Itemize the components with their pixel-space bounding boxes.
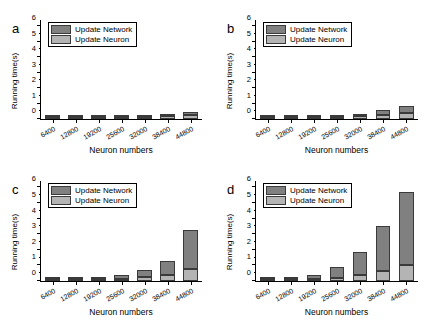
legend-swatch-neuron-icon	[51, 35, 71, 44]
y-tick-label-d-4: 4	[247, 205, 251, 214]
bar-slot: 38400	[156, 181, 179, 281]
bar-segment-update-network[interactable]	[160, 261, 174, 275]
stacked-bar[interactable]	[376, 207, 390, 281]
bar-segment-update-neuron[interactable]	[183, 269, 197, 281]
panel-letter-a: a	[12, 22, 19, 35]
stacked-bar[interactable]	[114, 106, 128, 119]
x-tick-a-6400	[53, 119, 54, 123]
bar-segment-update-network[interactable]	[183, 230, 197, 269]
y-tick-label-b-4: 4	[247, 44, 251, 53]
y-tick-label-a-0: 0	[32, 106, 36, 115]
bar-segment-update-network[interactable]	[330, 267, 344, 278]
x-tick-label-b-6400: 6400	[254, 125, 271, 139]
legend-label-update-neuron: Update Neuron	[75, 197, 129, 205]
stacked-bar[interactable]	[183, 210, 197, 281]
stacked-bar[interactable]	[307, 257, 321, 281]
x-tick-label-a-25600: 25600	[104, 125, 124, 141]
stacked-bar[interactable]	[91, 110, 105, 119]
legend-c: Update NetworkUpdate Neuron	[48, 183, 137, 208]
bar-segment-update-network[interactable]	[399, 106, 413, 113]
legend-label-update-neuron: Update Neuron	[290, 36, 344, 44]
stacked-bar[interactable]	[284, 112, 298, 119]
y-tick-label-a-4: 4	[32, 44, 36, 53]
legend-item-update-network[interactable]: Update Network	[266, 25, 347, 34]
bar-slot: 38400	[372, 20, 395, 119]
legend-item-update-network[interactable]: Update Network	[51, 25, 132, 34]
x-tick-label-d-6400: 6400	[254, 287, 271, 301]
stacked-bar[interactable]	[330, 243, 344, 281]
stacked-bar[interactable]	[160, 97, 174, 119]
bar-segment-update-neuron[interactable]	[376, 271, 390, 281]
stacked-bar[interactable]	[91, 265, 105, 281]
x-tick-label-b-12800: 12800	[274, 125, 294, 141]
bar-segment-update-network[interactable]	[353, 252, 367, 274]
y-tick-label-b-5: 5	[247, 28, 251, 37]
stacked-bar[interactable]	[284, 268, 298, 281]
stacked-bar[interactable]	[330, 103, 344, 119]
x-tick-label-d-32000: 32000	[343, 287, 363, 303]
y-tick-label-c-0: 0	[32, 268, 36, 277]
y-tick-label-a-2: 2	[32, 75, 36, 84]
legend-b: Update NetworkUpdate Neuron	[263, 22, 352, 47]
legend-item-update-neuron[interactable]: Update Neuron	[266, 196, 347, 205]
y-axis-title-b: Running time(s)	[225, 52, 234, 108]
bar-segment-update-network[interactable]	[137, 270, 151, 277]
x-tick-d-44800	[406, 281, 407, 285]
x-tick-d-38400	[383, 281, 384, 285]
legend-swatch-network-icon	[51, 25, 71, 34]
bar-segment-update-network[interactable]	[376, 226, 390, 271]
stacked-bar[interactable]	[399, 187, 413, 281]
x-axis-title-a: Neuron numbers	[40, 145, 202, 155]
x-tick-a-38400	[168, 119, 169, 123]
x-tick-label-b-38400: 38400	[366, 125, 386, 141]
legend-item-update-neuron[interactable]: Update Neuron	[266, 35, 347, 44]
stacked-bar[interactable]	[399, 83, 413, 119]
panel-letter-d: d	[227, 183, 234, 196]
stacked-bar[interactable]	[68, 272, 82, 281]
stacked-bar[interactable]	[137, 102, 151, 119]
x-tick-a-19200	[99, 119, 100, 123]
stacked-bar[interactable]	[183, 93, 197, 119]
panel-letter-b: b	[227, 22, 234, 35]
legend-label-update-network: Update Network	[75, 26, 132, 34]
legend-item-update-neuron[interactable]: Update Neuron	[51, 35, 132, 44]
legend-item-update-network[interactable]: Update Network	[266, 186, 347, 195]
panel-c: cRunning time(s)Neuron numbers0123456640…	[0, 161, 215, 323]
y-tick-label-d-1: 1	[247, 252, 251, 261]
bar-slot: 44800	[179, 181, 202, 281]
x-axis-title-b: Neuron numbers	[255, 145, 418, 155]
stacked-bar[interactable]	[307, 108, 321, 119]
x-tick-a-32000	[145, 119, 146, 123]
legend-swatch-neuron-icon	[266, 196, 286, 205]
y-tick-label-c-6: 6	[32, 174, 36, 183]
x-tick-c-12800	[76, 281, 77, 285]
x-tick-label-b-32000: 32000	[343, 125, 363, 141]
x-tick-label-c-12800: 12800	[58, 287, 78, 303]
legend-item-update-network[interactable]: Update Network	[51, 186, 132, 195]
x-tick-c-32000	[145, 281, 146, 285]
bar-segment-update-network[interactable]	[399, 192, 413, 265]
panel-b: bRunning time(s)Neuron numbers0123456640…	[215, 0, 431, 161]
x-tick-b-44800	[406, 119, 407, 123]
bar-segment-update-neuron[interactable]	[399, 265, 413, 281]
stacked-bar[interactable]	[353, 228, 367, 281]
x-tick-a-25600	[122, 119, 123, 123]
y-tick-label-c-2: 2	[32, 236, 36, 245]
stacked-bar[interactable]	[114, 257, 128, 281]
stacked-bar[interactable]	[376, 90, 390, 119]
x-tick-label-b-44800: 44800	[389, 125, 409, 141]
figure-four-panel-bar-charts: aRunning time(s)Neuron numbers0123456640…	[0, 0, 431, 323]
y-tick-label-a-1: 1	[32, 90, 36, 99]
stacked-bar[interactable]	[137, 248, 151, 281]
stacked-bar[interactable]	[160, 236, 174, 281]
y-tick-label-d-3: 3	[247, 221, 251, 230]
bar-slot: 44800	[179, 20, 202, 119]
legend-item-update-neuron[interactable]: Update Neuron	[51, 196, 132, 205]
x-tick-label-b-25600: 25600	[320, 125, 340, 141]
x-tick-label-a-19200: 19200	[81, 125, 101, 141]
y-tick-label-b-1: 1	[247, 90, 251, 99]
stacked-bar[interactable]	[353, 97, 367, 119]
x-tick-b-12800	[291, 119, 292, 123]
x-tick-d-6400	[268, 281, 269, 285]
x-tick-label-c-19200: 19200	[81, 287, 101, 303]
